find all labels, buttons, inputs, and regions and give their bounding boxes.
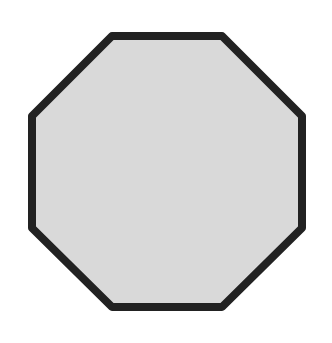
octagon-shape [0, 0, 332, 343]
octagon [32, 36, 302, 307]
canvas [0, 0, 332, 343]
